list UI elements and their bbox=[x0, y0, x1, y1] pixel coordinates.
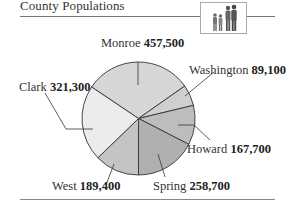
label-spring: Spring 258,700 bbox=[153, 179, 230, 194]
label-washington: Washington 89,100 bbox=[189, 63, 286, 78]
label-clark: Clark 321,300 bbox=[19, 80, 91, 95]
footer-rule bbox=[20, 199, 275, 200]
label-howard: Howard 167,700 bbox=[187, 142, 271, 157]
pie-chart bbox=[0, 0, 290, 214]
pie-slices bbox=[82, 62, 195, 175]
label-west: West 189,400 bbox=[52, 179, 120, 194]
label-monroe: Monroe 457,500 bbox=[101, 36, 184, 51]
